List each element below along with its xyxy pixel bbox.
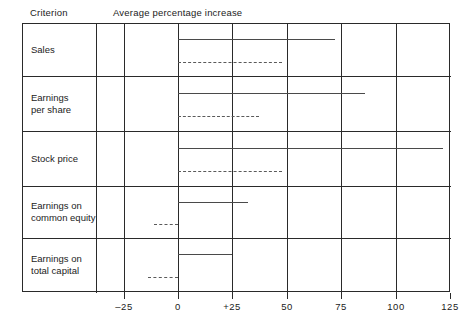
row-separator xyxy=(22,186,451,187)
axis-tick-75 xyxy=(341,293,342,299)
bar-dashed-earnings-per-share xyxy=(178,116,259,117)
axis-tick-100 xyxy=(396,293,397,299)
bar-solid-earnings-per-share xyxy=(178,93,365,94)
axis-tick-125 xyxy=(450,293,451,299)
axis-tick--25 xyxy=(124,293,125,299)
axis-tick-0 xyxy=(178,293,179,299)
row-separator xyxy=(22,131,451,132)
row-label: Earnings on common equity xyxy=(31,200,95,224)
gridline-100 xyxy=(396,23,397,293)
row-label: Earnings on total capital xyxy=(31,253,82,277)
axis-tick-label-0: 0 xyxy=(175,301,181,312)
axis-tick-label-50: 50 xyxy=(281,301,293,312)
bar-dashed-earnings-on-total-capital xyxy=(148,277,178,278)
criterion-column-header: Criterion xyxy=(30,7,68,18)
row-label: Earnings per share xyxy=(31,92,71,116)
axis-tick-25 xyxy=(232,293,233,299)
gridline-0 xyxy=(178,23,179,293)
row-separator xyxy=(22,76,451,77)
row-label: Sales xyxy=(31,44,55,56)
bar-dashed-earnings-on-common-equity xyxy=(154,224,178,225)
chart-frame xyxy=(22,23,450,292)
axis-tick-label--25: –25 xyxy=(115,301,132,312)
axis-title: Average percentage increase xyxy=(113,7,242,18)
row-separator xyxy=(22,238,451,239)
bar-solid-earnings-on-total-capital xyxy=(178,254,232,255)
bar-solid-stock-price xyxy=(178,148,443,149)
chart-figure: Criterion Average percentage increase Sa… xyxy=(0,0,466,320)
axis-tick-label-25: +25 xyxy=(223,301,241,312)
axis-tick-label-125: 125 xyxy=(441,301,458,312)
gridline-50 xyxy=(287,23,288,293)
criterion-plot-divider xyxy=(96,23,97,293)
bar-dashed-sales xyxy=(178,62,282,63)
row-label: Stock price xyxy=(31,153,78,165)
axis-tick-50 xyxy=(287,293,288,299)
bar-solid-sales xyxy=(178,39,335,40)
gridline-75 xyxy=(341,23,342,293)
gridline--25 xyxy=(124,23,125,293)
axis-tick-label-75: 75 xyxy=(335,301,347,312)
bar-dashed-stock-price xyxy=(178,171,282,172)
axis-tick-label-100: 100 xyxy=(387,301,404,312)
gridline-25 xyxy=(232,23,233,293)
bar-solid-earnings-on-common-equity xyxy=(178,202,248,203)
